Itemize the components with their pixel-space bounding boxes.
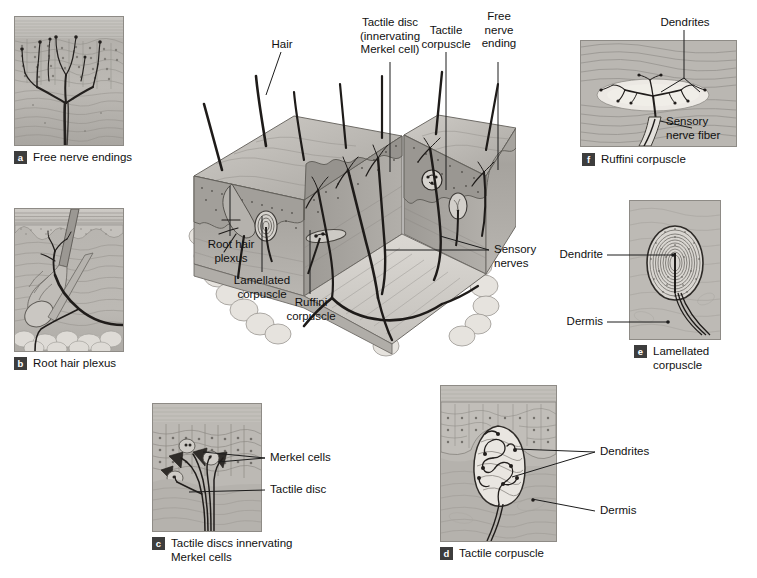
central-label-hair: Hair	[256, 38, 308, 52]
panel-d-label-dendrites: Dendrites	[600, 445, 690, 459]
panel-e-caption: e Lamellated corpuscle	[634, 344, 754, 372]
panel-c-label-merkel-cells: Merkel cells	[270, 451, 366, 465]
panel-a-caption: a Free nerve endings	[14, 150, 174, 164]
panel-c-caption-text: Tactile discs innervating Merkel cells	[171, 536, 292, 564]
panel-c-label-tactile-disc: Tactile disc	[270, 483, 366, 497]
panel-e-badge: e	[634, 345, 647, 358]
central-label-tactile-corpuscle: Tactile corpuscle	[410, 24, 482, 51]
panel-f-label-sensory-nerve-fiber: Sensory nerve fiber	[666, 115, 746, 142]
panel-f-caption: f Ruffini corpuscle	[582, 152, 752, 166]
figure-canvas: a Free nerve endings	[0, 0, 757, 578]
panel-d-caption: d Tactile corpuscle	[440, 546, 620, 560]
panel-c-image	[152, 403, 262, 532]
panel-f-badge: f	[582, 153, 595, 166]
panel-e-label-dermis: Dermis	[527, 315, 603, 329]
panel-f-label-dendrites: Dendrites	[650, 16, 720, 30]
panel-a-caption-text: Free nerve endings	[33, 150, 132, 164]
central-label-root-hair-plexus: Root hair plexus	[186, 238, 276, 265]
panel-a-image	[14, 16, 124, 146]
panel-b-image	[14, 208, 124, 352]
panel-c-caption: c Tactile discs innervating Merkel cells	[152, 536, 342, 564]
panel-e-caption-text: Lamellated corpuscle	[653, 344, 709, 372]
panel-d-image	[440, 385, 557, 542]
central-label-free-nerve-ending: Free nerve ending	[474, 10, 524, 51]
panel-a-badge: a	[14, 151, 27, 164]
panel-d-badge: d	[440, 547, 453, 560]
panel-d-label-dermis: Dermis	[600, 504, 690, 518]
panel-f-caption-text: Ruffini corpuscle	[601, 152, 686, 166]
panel-e-label-dendrite: Dendrite	[527, 248, 603, 262]
central-label-ruffini-corpuscle: Ruffini corpuscle	[266, 296, 356, 323]
panel-d-caption-text: Tactile corpuscle	[459, 546, 544, 560]
panel-b-caption: b Root hair plexus	[14, 356, 174, 370]
panel-c-badge: c	[152, 537, 165, 550]
panel-b-badge: b	[14, 357, 27, 370]
panel-b-caption-text: Root hair plexus	[33, 356, 116, 370]
panel-e-image	[629, 200, 721, 340]
